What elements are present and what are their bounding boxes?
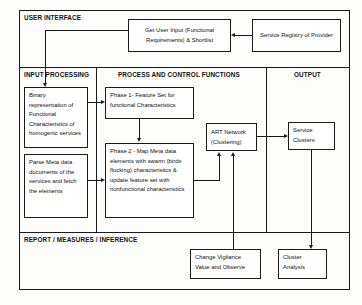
- column-divider-process-output: [266, 67, 267, 232]
- edge-userinput-to-binary-vline: [45, 30, 46, 84]
- edge-binary-to-phase1-arrowhead: [101, 100, 105, 104]
- edge-parse-to-phase2-arrowhead: [101, 178, 105, 182]
- node-parse-meta-data[interactable]: Parse Meta data documents of the service…: [24, 154, 88, 218]
- panel-label-user-interface: USER INTERFACE: [24, 14, 81, 21]
- panel-label-process-and-control: PROCESS AND CONTROL FUNCTIONS: [118, 71, 240, 78]
- node-service-clusters[interactable]: Service Clusters: [288, 122, 335, 150]
- edge-userinput-to-binary-hline: [45, 30, 128, 31]
- edge-vigilance-to-art-vline: [233, 156, 234, 249]
- edge-phase1-to-phase2-arrowhead: [137, 138, 141, 142]
- node-binary-representation[interactable]: Binary representation of Functional Char…: [24, 87, 88, 148]
- edge-clusters-to-analysis-line: [311, 150, 312, 246]
- edge-vigilance-to-art-arrowhead: [231, 152, 235, 156]
- column-divider-input-process: [96, 67, 97, 232]
- edge-phase2-to-art-arrowhead: [217, 152, 221, 156]
- panel-label-report-measures-inference: REPORT / MEASURES / INFERENCE: [24, 236, 137, 243]
- edge-parse-to-phase2-line: [88, 180, 101, 181]
- node-phase-2[interactable]: Phase 2 - Map Meta data elements with sw…: [105, 143, 194, 218]
- panel-divider-report-top: [19, 232, 350, 233]
- panel-divider-user-interface-bottom: [19, 67, 350, 68]
- edge-phase2-to-art-hline: [194, 180, 220, 181]
- edge-registry-to-userinput-arrowhead: [231, 33, 235, 37]
- edge-registry-to-userinput-line: [235, 35, 252, 36]
- edge-phase2-to-art-vline: [219, 156, 220, 181]
- panel-label-input-processing: INPUT PROCESSING: [24, 71, 89, 78]
- node-service-registry[interactable]: Service Registry of Provider: [252, 19, 341, 52]
- node-get-user-input[interactable]: Get User Input (Functional Requirements)…: [128, 19, 231, 52]
- node-change-vigilance[interactable]: Change Vigilance Value and Observe: [190, 249, 261, 279]
- node-art-network[interactable]: ART Network (Clustering): [206, 123, 257, 151]
- diagram-canvas: USER INTERFACE INPUT PROCESSING PROCESS …: [0, 0, 362, 305]
- edge-phase1-to-phase2-line: [139, 119, 140, 139]
- edge-binary-to-phase1-line: [88, 102, 101, 103]
- node-phase-1[interactable]: Phase 1- Feature Set for functional Char…: [105, 87, 194, 119]
- edge-art-to-clusters-line: [257, 136, 284, 137]
- node-cluster-analysis[interactable]: Cluster Analysis: [278, 249, 327, 279]
- panel-label-output: OUTPUT: [294, 71, 321, 78]
